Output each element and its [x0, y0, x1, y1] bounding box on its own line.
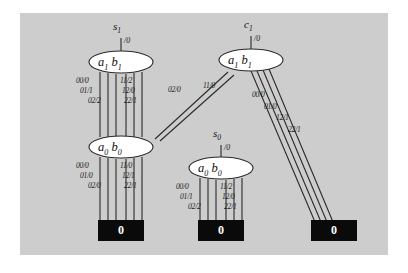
- input-label-s1: s1: [113, 21, 121, 35]
- edge-label-n4-l3: 02/2: [188, 203, 201, 211]
- edge-label-n2-leaf-1: 00/0: [252, 91, 265, 99]
- edge-label-n3-r2: 12/1: [122, 172, 135, 180]
- edge-n2-leaf-e3: [263, 70, 327, 222]
- node-ellipse-n3: [89, 136, 153, 158]
- edge-label-n4-l2: 01/1: [180, 193, 193, 201]
- edge-label-n2-leaf-4: 22/1: [288, 126, 301, 134]
- edge-label-n1-r3: 22/1: [124, 97, 137, 105]
- edge-label-n1-l3: 02/2: [88, 97, 101, 105]
- node-ellipse-n1: [89, 51, 153, 73]
- figure-root: a1 b1 s1 /0 a1 b1 c1 /0 a0 b0 a0 b0 s0 /…: [0, 0, 408, 273]
- edge-label-n2-leaf-2: 01/0: [264, 103, 277, 111]
- input-output-s1: /0: [124, 37, 130, 45]
- edge-label-n3-l2: 01/0: [80, 172, 93, 180]
- leaf-node-1: 0: [198, 220, 244, 241]
- edge-label-n1-l2: 01/1: [80, 87, 93, 95]
- node-ellipse-n4: [189, 157, 253, 179]
- leaf-node-2: 0: [311, 220, 357, 241]
- edge-label-n3-l1: 00/0: [76, 162, 89, 170]
- edge-label-n4-l1: 00/0: [176, 183, 189, 191]
- edge-n2-leaf-e4: [269, 69, 333, 222]
- node-ellipse-n2: [219, 49, 283, 71]
- edge-label-n1-r2: 12/0: [122, 87, 135, 95]
- leaf-node-0: 0: [98, 220, 144, 241]
- input-output-s0: /0: [224, 144, 230, 152]
- edge-label-n1-r1: 11/2: [120, 77, 132, 85]
- edge-label-n4-r1: 11/2: [220, 183, 232, 191]
- edge-label-n2-n3-a: 02/0: [168, 86, 181, 94]
- edge-label-n4-r2: 12/0: [222, 193, 235, 201]
- input-label-s0: s0: [213, 128, 221, 142]
- edge-n2-leaf-e2: [257, 71, 321, 222]
- edge-label-n3-l3: 02/0: [88, 182, 101, 190]
- edge-label-n1-l1: 00/0: [76, 77, 89, 85]
- edge-label-n3-r1: 11/0: [120, 162, 132, 170]
- edge-label-n2-n3-b: 11/0: [203, 82, 215, 90]
- input-label-c1: c1: [244, 19, 253, 33]
- edge-label-n4-r3: 22/1: [224, 203, 237, 211]
- edge-label-n3-r3: 22/1: [124, 182, 137, 190]
- edge-label-n2-leaf-3: 12/1: [276, 114, 289, 122]
- input-output-c1: /0: [254, 35, 260, 43]
